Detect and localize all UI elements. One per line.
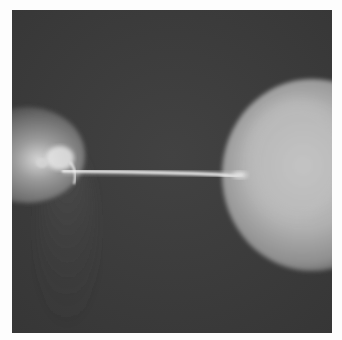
spark-scene [12, 10, 332, 333]
page [0, 0, 342, 340]
left-sphere-glow [46, 146, 74, 170]
spark-contact-point [232, 171, 248, 179]
left-sphere-reflection [36, 158, 48, 168]
spark-photograph [12, 10, 332, 333]
